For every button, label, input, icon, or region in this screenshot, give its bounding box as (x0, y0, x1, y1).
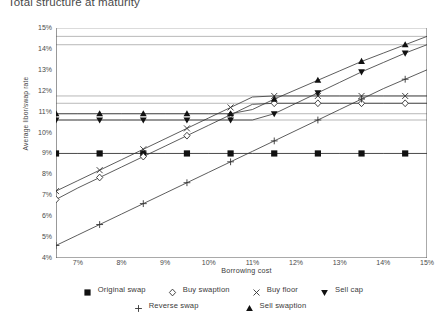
legend-item-sell-cap[interactable]: Sell cap (318, 284, 363, 295)
x-tick-label: 14% (376, 259, 390, 266)
legend-label: Reverse swap (149, 301, 199, 310)
x-tick-label: 12% (289, 259, 303, 266)
filled-down-triangle-icon (318, 284, 331, 295)
x-axis-label: Borrowing cost (55, 266, 438, 275)
plot-area (56, 28, 427, 258)
cross-x-icon (250, 284, 263, 295)
series-reverse-swap (56, 70, 427, 249)
legend-item-buy-swaption[interactable]: Buy swaption (166, 284, 230, 295)
y-tick-label: 5% (24, 233, 52, 240)
chart-legend: Original swapBuy swaptionBuy floorSell c… (0, 281, 438, 313)
series-original-swap (56, 150, 427, 156)
filled-up-triangle-icon (243, 300, 256, 311)
y-tick-label: 7% (24, 191, 52, 198)
y-tick-label: 15% (24, 24, 52, 31)
legend-item-original-swap[interactable]: Original swap (81, 284, 146, 295)
series-buy-floor (56, 93, 427, 194)
legend-label: Sell swaption (260, 301, 307, 310)
y-tick-label: 14% (24, 45, 52, 52)
y-tick-label: 13% (24, 66, 52, 73)
x-tick-label: 11% (246, 259, 260, 266)
legend-row-2: Reverse swapSell swaption (0, 297, 438, 313)
legend-label: Buy floor (267, 285, 298, 294)
y-tick-label: 12% (24, 87, 52, 94)
y-axis-ticks: 4%5%6%7%8%9%10%11%12%13%14%15% (20, 28, 52, 258)
y-tick-label: 11% (24, 108, 52, 115)
x-tick-label: 13% (333, 259, 347, 266)
x-tick-label: 8% (116, 259, 126, 266)
open-diamond-icon (166, 284, 179, 295)
x-tick-label: 10% (202, 259, 216, 266)
legend-item-reverse-swap[interactable]: Reverse swap (132, 300, 199, 311)
y-tick-label: 9% (24, 149, 52, 156)
y-tick-label: 4% (24, 254, 52, 261)
x-tick-label: 15% (420, 259, 434, 266)
y-tick-label: 6% (24, 212, 52, 219)
legend-label: Buy swaption (183, 285, 230, 294)
series-sell-swaption (56, 36, 427, 116)
x-tick-label: 7% (73, 259, 83, 266)
legend-label: Original swap (98, 285, 146, 294)
plus-icon (132, 300, 145, 311)
filled-square-icon (81, 284, 94, 295)
chart-container: Total structure at maturity Average libo… (0, 0, 438, 321)
x-tick-label: 9% (160, 259, 170, 266)
legend-label: Sell cap (335, 285, 363, 294)
series-buy-swaption (56, 100, 427, 203)
legend-row-1: Original swapBuy swaptionBuy floorSell c… (0, 281, 438, 297)
y-tick-label: 8% (24, 170, 52, 177)
chart-title: Total structure at maturity (8, 0, 328, 9)
y-tick-label: 10% (24, 129, 52, 136)
plot-svg (56, 28, 427, 258)
legend-item-buy-floor[interactable]: Buy floor (250, 284, 298, 295)
legend-item-sell-swaption[interactable]: Sell swaption (243, 300, 307, 311)
